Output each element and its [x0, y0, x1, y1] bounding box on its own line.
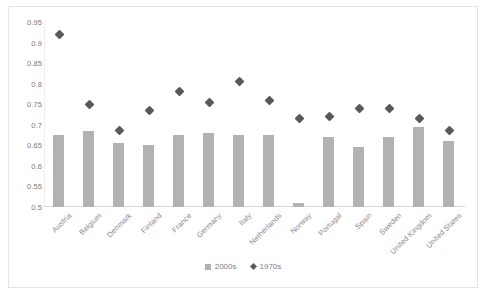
- y-axis-tick-1: 0.9: [8, 38, 42, 47]
- marker-germany: [204, 97, 214, 107]
- category-group: [314, 22, 344, 207]
- x-axis-label-germany: Germany: [195, 211, 224, 240]
- y-axis-tick-7: 0.6: [8, 161, 42, 170]
- category-group: [74, 22, 104, 207]
- legend-item-2000s[interactable]: 2000s: [205, 262, 237, 271]
- marker-spain: [354, 103, 364, 113]
- y-axis-tick-labels: 0.950.90.850.80.750.70.650.60.550.5: [9, 7, 42, 289]
- bar-sweden: [383, 137, 394, 207]
- marker-france: [174, 87, 184, 97]
- category-group: [104, 22, 134, 207]
- x-axis-label-france: France: [170, 211, 193, 234]
- bar-norway: [293, 203, 304, 207]
- y-axis-tick-5: 0.7: [8, 120, 42, 129]
- legend-label: 1970s: [260, 262, 282, 271]
- marker-austria: [54, 29, 64, 39]
- chart-legend: 2000s1970s: [9, 262, 477, 271]
- marker-norway: [294, 114, 304, 124]
- y-axis-tick-8: 0.55: [8, 182, 42, 191]
- x-axis-label-austria: Austria: [50, 211, 73, 234]
- bar-belgium: [83, 131, 94, 207]
- bar-united-kingdom: [413, 127, 424, 207]
- x-axis-label-norway: Norway: [289, 211, 314, 236]
- bar-netherlands: [263, 135, 274, 207]
- x-axis-label-spain: Spain: [353, 211, 373, 231]
- category-group: [164, 22, 194, 207]
- legend-label: 2000s: [215, 262, 237, 271]
- bar-france: [173, 135, 184, 207]
- category-group: [374, 22, 404, 207]
- diamond-marker-icon: [249, 263, 256, 270]
- category-group: [194, 22, 224, 207]
- chart-container: 0.950.90.850.80.750.70.650.60.550.5 2000…: [8, 6, 478, 288]
- category-group: [254, 22, 284, 207]
- category-group: [224, 22, 254, 207]
- y-axis-tick-6: 0.65: [8, 141, 42, 150]
- bar-germany: [203, 133, 214, 207]
- y-axis-tick-9: 0.5: [8, 203, 42, 212]
- bar-austria: [53, 135, 64, 207]
- marker-united-kingdom: [414, 114, 424, 124]
- category-group: [284, 22, 314, 207]
- category-group: [134, 22, 164, 207]
- category-group: [434, 22, 464, 207]
- category-group: [344, 22, 374, 207]
- marker-portugal: [324, 112, 334, 122]
- bar-denmark: [113, 143, 124, 207]
- square-marker-icon: [205, 264, 211, 270]
- x-axis-label-finland: Finland: [139, 211, 163, 235]
- legend-item-1970s[interactable]: 1970s: [251, 262, 282, 271]
- marker-sweden: [384, 103, 394, 113]
- x-axis-label-italy: Italy: [237, 211, 253, 227]
- bar-italy: [233, 135, 244, 207]
- marker-finland: [144, 105, 154, 115]
- y-axis-tick-2: 0.85: [8, 59, 42, 68]
- x-axis-label-denmark: Denmark: [105, 211, 133, 239]
- x-axis-label-portugal: Portugal: [317, 211, 344, 238]
- category-group: [44, 22, 74, 207]
- x-axis-label-belgium: Belgium: [77, 211, 103, 237]
- y-axis-tick-3: 0.8: [8, 79, 42, 88]
- category-group: [404, 22, 434, 207]
- marker-belgium: [84, 99, 94, 109]
- marker-denmark: [114, 126, 124, 136]
- marker-italy: [234, 77, 244, 87]
- bar-finland: [143, 145, 154, 207]
- x-axis-label-sweden: Sweden: [377, 211, 403, 237]
- marker-united-states: [444, 126, 454, 136]
- bar-portugal: [323, 137, 334, 207]
- plot-area: [44, 22, 464, 207]
- y-axis-tick-0: 0.95: [8, 18, 42, 27]
- marker-netherlands: [264, 95, 274, 105]
- bar-spain: [353, 147, 364, 207]
- bar-united-states: [443, 141, 454, 207]
- y-axis-tick-4: 0.75: [8, 100, 42, 109]
